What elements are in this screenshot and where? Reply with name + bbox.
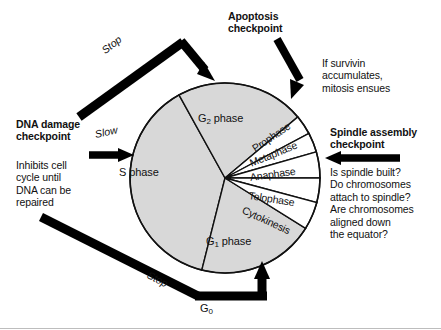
cell-cycle-figure: DNA damage checkpoint Inhibits cell cycl… [0,0,441,330]
pie-label-g2-suffix: phase [211,112,243,124]
resting-phase-label-g0: G0 [200,302,213,315]
pie-label-g2-phase: G2 phase [198,112,243,125]
slow-arrow [89,148,134,162]
pie-label-g2-subscript: 2 [206,117,210,126]
pie-label-g1-subscript: 1 [214,240,218,249]
checkpoint-title-dna-damage: DNA damage checkpoint [16,118,80,143]
pie-label-g1-phase: G1 phase [206,235,251,248]
spindle-assembly-arrow [325,151,400,165]
checkpoint-title-apoptosis: Apoptosis checkpoint [228,10,282,35]
apoptosis-arrow [277,39,304,99]
checkpoint-description-spindle-assembly: Is spindle built? Do chromosomes attach … [330,166,414,240]
g0-letter: G [200,302,209,314]
pie-label-s-phase: S phase [119,166,159,179]
g0-subscript: 0 [209,307,213,316]
checkpoint-description-dna-damage: Inhibits cell cycle until DNA can be rep… [16,159,71,209]
checkpoint-description-apoptosis: If survivin accumulates, mitosis ensues [322,57,390,94]
pie-label-g1-suffix: phase [219,235,251,247]
checkpoint-title-spindle-assembly: Spindle assembly checkpoint [330,126,417,151]
